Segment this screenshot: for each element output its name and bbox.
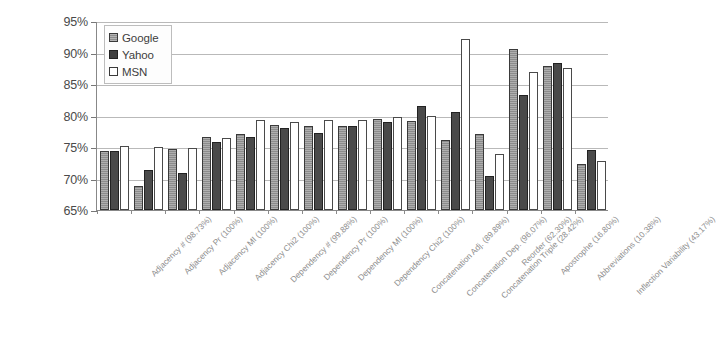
bar-google bbox=[373, 119, 382, 210]
bar-msn bbox=[290, 122, 299, 210]
bar-msn bbox=[154, 147, 163, 210]
y-axis-tick-label: 85% bbox=[44, 78, 88, 92]
bar-google bbox=[202, 137, 211, 210]
bar-msn bbox=[529, 72, 538, 210]
legend-item-yahoo: Yahoo bbox=[109, 46, 167, 63]
bar-google bbox=[509, 49, 518, 210]
bar-google bbox=[338, 126, 347, 210]
bar-msn bbox=[427, 116, 436, 210]
bar-msn bbox=[563, 68, 572, 210]
bar-google bbox=[236, 134, 245, 210]
bar-group bbox=[472, 22, 506, 210]
bar-msn bbox=[495, 154, 504, 210]
legend-label-yahoo: Yahoo bbox=[122, 49, 154, 61]
bar-yahoo bbox=[417, 106, 426, 210]
bar-group bbox=[575, 22, 609, 210]
y-axis-tick-label: 65% bbox=[44, 204, 88, 218]
bar-google bbox=[543, 66, 552, 210]
bar-yahoo bbox=[587, 150, 596, 210]
bar-google bbox=[577, 164, 586, 210]
bar-yahoo bbox=[348, 126, 357, 210]
bar-group bbox=[507, 22, 541, 210]
bar-msn bbox=[393, 117, 402, 210]
x-axis-category-label: Dependency Chi2 (100%) bbox=[392, 214, 466, 288]
legend-label-msn: MSN bbox=[122, 66, 147, 78]
plot-area bbox=[96, 22, 608, 211]
bar-group bbox=[268, 22, 302, 210]
bar-yahoo bbox=[451, 112, 460, 210]
bar-google bbox=[304, 126, 313, 210]
bar-google bbox=[270, 125, 279, 210]
bar-yahoo bbox=[280, 128, 289, 210]
bar-msn bbox=[256, 120, 265, 210]
y-axis-tick-label: 80% bbox=[44, 110, 88, 124]
bar-google bbox=[475, 134, 484, 210]
y-axis-tick-label: 70% bbox=[44, 173, 88, 187]
y-axis-tick-label: 90% bbox=[44, 47, 88, 61]
bar-msn bbox=[222, 138, 231, 210]
bar-yahoo bbox=[553, 63, 562, 210]
msn-swatch-icon bbox=[109, 67, 118, 76]
bar-msn bbox=[324, 120, 333, 210]
bar-group bbox=[541, 22, 575, 210]
bar-group bbox=[336, 22, 370, 210]
x-axis-category-label: Adjacency Pr (100%) bbox=[182, 214, 244, 276]
bar-group bbox=[370, 22, 404, 210]
bar-google bbox=[168, 149, 177, 210]
bar-msn bbox=[461, 39, 470, 210]
x-axis-labels: Adjacency # (98.73%)Adjacency Pr (100%)A… bbox=[96, 214, 608, 354]
bar-google bbox=[441, 140, 450, 210]
legend-item-msn: MSN bbox=[109, 63, 167, 80]
y-axis-tick-label: 95% bbox=[44, 15, 88, 29]
bar-yahoo bbox=[485, 176, 494, 210]
legend-item-google: Google bbox=[109, 29, 167, 46]
bar-google bbox=[100, 151, 109, 210]
bar-yahoo bbox=[519, 95, 528, 210]
yahoo-swatch-icon bbox=[109, 50, 118, 59]
bar-yahoo bbox=[314, 133, 323, 210]
bar-msn bbox=[188, 148, 197, 210]
bar-google bbox=[407, 121, 416, 210]
bar-yahoo bbox=[383, 122, 392, 210]
bar-msn bbox=[358, 120, 367, 210]
bar-google bbox=[134, 186, 143, 210]
bar-msn bbox=[120, 146, 129, 210]
bar-group bbox=[302, 22, 336, 210]
bar-group bbox=[404, 22, 438, 210]
bar-group bbox=[438, 22, 472, 210]
bar-msn bbox=[597, 161, 606, 210]
legend-label-google: Google bbox=[122, 32, 158, 44]
chart-legend: Google Yahoo MSN bbox=[104, 25, 172, 84]
bar-yahoo bbox=[110, 151, 119, 210]
bar-yahoo bbox=[178, 173, 187, 210]
y-axis-tick-label: 75% bbox=[44, 141, 88, 155]
bar-group bbox=[234, 22, 268, 210]
google-swatch-icon bbox=[109, 33, 118, 42]
bar-group bbox=[199, 22, 233, 210]
bar-yahoo bbox=[246, 137, 255, 210]
bar-yahoo bbox=[212, 142, 221, 210]
bar-yahoo bbox=[144, 170, 153, 210]
